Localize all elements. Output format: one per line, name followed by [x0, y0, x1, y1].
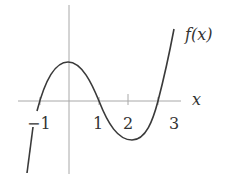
tick-label-2: 2: [123, 114, 133, 133]
function-curve-tail: [27, 127, 33, 173]
x-axis-label: x: [192, 90, 201, 109]
tick-label-3: 3: [169, 114, 179, 133]
tick-label-minus-1: −1: [27, 114, 51, 133]
function-curve: [37, 29, 174, 140]
tick-label-1: 1: [93, 114, 103, 133]
function-graph: f(x) x −1 1 2 3: [0, 0, 230, 179]
function-label: f(x): [184, 25, 212, 44]
